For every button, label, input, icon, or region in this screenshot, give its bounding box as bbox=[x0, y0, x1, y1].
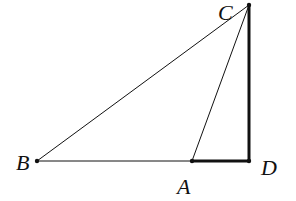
triangle-diagram: C B A D bbox=[0, 0, 296, 201]
point-d bbox=[247, 159, 251, 163]
segment-ac bbox=[192, 5, 249, 161]
point-b bbox=[35, 159, 39, 163]
label-b: B bbox=[16, 150, 29, 175]
point-c bbox=[247, 3, 251, 7]
label-a: A bbox=[175, 174, 191, 199]
label-c: C bbox=[218, 0, 233, 25]
label-d: D bbox=[260, 155, 277, 180]
point-a bbox=[190, 159, 194, 163]
segment-bc bbox=[37, 5, 249, 161]
